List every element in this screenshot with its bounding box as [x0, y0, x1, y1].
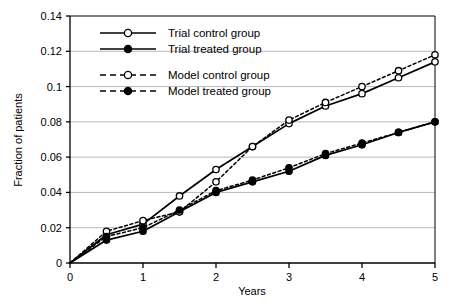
data-point-open [140, 217, 146, 223]
legend-marker-filled [124, 87, 131, 94]
data-point-open [249, 143, 255, 149]
line-chart: 00.020.040.060.080.10.120.14 012345 Frac… [0, 0, 465, 307]
data-point-filled [103, 233, 109, 239]
data-point-filled [140, 225, 146, 231]
legend-label: Model treated group [168, 85, 271, 97]
chart-container: 00.020.040.060.080.10.120.14 012345 Frac… [0, 0, 465, 307]
y-tick-label: 0 [56, 257, 62, 269]
data-point-open [432, 59, 438, 65]
x-tick-label: 2 [213, 271, 219, 283]
data-point-open [213, 166, 219, 172]
data-point-open [395, 75, 401, 81]
y-tick-label: 0.12 [41, 45, 62, 57]
data-point-filled [286, 165, 292, 171]
data-point-open [213, 179, 219, 185]
data-point-open [395, 67, 401, 73]
data-point-filled [395, 129, 401, 135]
data-point-filled [176, 207, 182, 213]
y-tick-label: 0.02 [41, 222, 62, 234]
y-tick-label: 0.08 [41, 116, 62, 128]
legend-marker-filled [124, 45, 131, 52]
data-point-filled [432, 119, 438, 125]
y-tick-label: 0.06 [41, 151, 62, 163]
data-point-filled [322, 150, 328, 156]
x-tick-label: 5 [432, 271, 438, 283]
y-tick-label: 0.04 [41, 186, 62, 198]
data-point-open [432, 52, 438, 58]
y-axis-label: Fraction of patients [12, 93, 24, 187]
data-point-filled [359, 140, 365, 146]
data-point-open [359, 90, 365, 96]
data-point-open [286, 117, 292, 123]
x-tick-label: 4 [359, 271, 365, 283]
x-tick-label: 1 [140, 271, 146, 283]
legend-marker-open [124, 29, 131, 36]
legend-label: Model control group [168, 69, 270, 81]
data-point-open [176, 193, 182, 199]
x-axis-label: Years [238, 285, 266, 297]
data-point-open [322, 99, 328, 105]
y-tick-label: 0.14 [41, 10, 62, 22]
x-tick-label: 3 [286, 271, 292, 283]
data-point-filled [213, 187, 219, 193]
legend-label: Trial control group [168, 27, 260, 39]
legend-marker-open [124, 71, 131, 78]
data-point-open [359, 83, 365, 89]
data-point-filled [249, 177, 255, 183]
y-tick-label: 0.1 [47, 81, 62, 93]
legend-label: Trial treated group [168, 43, 262, 55]
x-tick-label: 0 [67, 271, 73, 283]
